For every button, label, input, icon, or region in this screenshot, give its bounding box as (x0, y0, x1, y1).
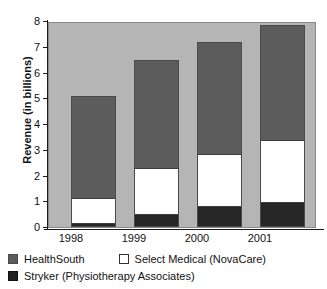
x-tick-label-2000: 2000 (167, 232, 227, 244)
bar-2001[interactable] (260, 25, 305, 227)
x-tick-label-1999: 1999 (104, 232, 164, 244)
legend-swatch-stryker (8, 271, 18, 281)
bar-segment-1998-select (72, 198, 115, 224)
legend-swatch-healthsouth (8, 254, 18, 264)
legend-swatch-select-medical (119, 254, 129, 264)
bar-segment-2000-stryker (198, 206, 241, 226)
legend-label-healthsouth: HealthSouth (24, 253, 85, 265)
bar-segment-2000-healthsouth (198, 43, 241, 154)
y-tick-label-0: 0 (34, 221, 40, 234)
bar-segment-1998-stryker (72, 223, 115, 226)
y-tick-label-8: 8 (34, 15, 40, 28)
y-tick-label-7: 7 (34, 41, 40, 54)
legend-item-stryker[interactable]: Stryker (Physiotherapy Associates) (8, 270, 195, 282)
x-tick-label-1998: 1998 (41, 232, 101, 244)
y-tick-label-3: 3 (34, 144, 40, 157)
bar-segment-1999-select (135, 168, 178, 214)
bar-segment-1999-stryker (135, 214, 178, 226)
legend-item-healthsouth[interactable]: HealthSouth (8, 253, 85, 265)
x-axis-line (44, 229, 324, 230)
bar-segment-2000-select (198, 154, 241, 206)
bar-segment-2001-select (261, 140, 304, 202)
y-tick-label-5: 5 (34, 92, 40, 105)
chart-legend: HealthSouth Select Medical (NovaCare) St… (8, 250, 327, 284)
legend-row-2: Stryker (Physiotherapy Associates) (8, 267, 327, 284)
y-tick-label-1: 1 (34, 195, 40, 208)
legend-row-1: HealthSouth Select Medical (NovaCare) (8, 250, 327, 267)
stacked-bar-chart: Revenue (in billions) 8 7 6 5 4 3 2 1 0 (0, 0, 327, 289)
bar-segment-1998-healthsouth (72, 97, 115, 197)
bar-2000[interactable] (197, 42, 242, 227)
y-tick-label-2: 2 (34, 170, 40, 183)
legend-label-select-medical: Select Medical (NovaCare) (135, 253, 266, 265)
x-tick-label-2001: 2001 (230, 232, 290, 244)
bar-1999[interactable] (134, 60, 179, 227)
y-axis-ticks: 8 7 6 5 4 3 2 1 0 (0, 22, 48, 228)
bar-1998[interactable] (71, 96, 116, 227)
legend-label-stryker: Stryker (Physiotherapy Associates) (24, 270, 195, 282)
bar-segment-1999-healthsouth (135, 61, 178, 168)
y-tick-label-6: 6 (34, 67, 40, 80)
bar-segment-2001-healthsouth (261, 26, 304, 139)
plot-area (48, 22, 316, 228)
y-tick-label-4: 4 (34, 118, 40, 131)
legend-item-select-medical[interactable]: Select Medical (NovaCare) (119, 253, 266, 265)
bar-segment-2001-stryker (261, 202, 304, 226)
